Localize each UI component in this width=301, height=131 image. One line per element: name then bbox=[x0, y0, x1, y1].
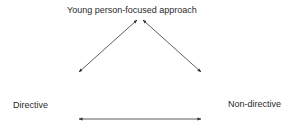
arrow-top-right bbox=[143, 20, 201, 72]
diagram-canvas: Young person-focused approach Directive … bbox=[0, 0, 301, 131]
arrows-layer bbox=[0, 0, 301, 131]
arrow-top-left bbox=[79, 20, 137, 72]
